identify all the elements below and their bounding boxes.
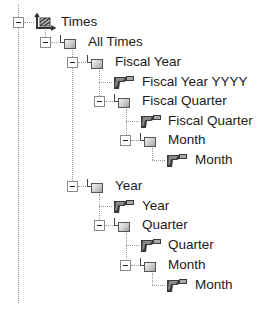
tree-node-fiscal-quarter[interactable]: Fiscal Quarter [0,92,250,110]
collapse-toggle[interactable] [40,37,51,48]
node-label: Month [195,277,233,293]
level-icon [87,179,105,193]
attribute-icon [112,74,136,94]
node-label: Fiscal Quarter [142,93,227,109]
node-label: All Times [88,34,143,50]
node-label: Year [142,198,169,214]
collapse-toggle[interactable] [13,17,24,28]
tree-node-fiscal-month-attr[interactable]: Month [0,151,250,169]
collapse-toggle[interactable] [94,220,105,231]
tree-node-fiscal-quarter-attr[interactable]: Fiscal Quarter [0,112,269,130]
collapse-toggle[interactable] [94,96,105,107]
collapse-toggle[interactable] [67,181,78,192]
level-icon [140,258,158,272]
node-label: Month [195,152,233,168]
tree-node-month[interactable]: Month [0,256,220,274]
level-icon [87,55,105,69]
tree-node-times[interactable]: Times [0,13,120,31]
node-label: Month [168,132,206,148]
level-icon [140,133,158,147]
tree-node-quarter-attr[interactable]: Quarter [0,236,230,254]
node-label: Month [168,257,206,273]
attribute-icon [112,198,136,218]
tree-node-all-times[interactable]: All Times [0,33,160,51]
tree-node-fiscal-month[interactable]: Month [0,131,220,149]
attribute-icon [165,152,189,172]
level-icon [60,35,78,49]
attribute-icon [139,237,163,257]
tree-node-year-attr[interactable]: Year [0,197,200,215]
attribute-icon [165,277,189,297]
node-label: Fiscal Year YYYY [142,74,248,90]
node-label: Quarter [168,237,214,253]
node-label: Year [115,178,142,194]
node-label: Quarter [142,217,188,233]
tree-view[interactable]: Times All Times Fiscal Year Fiscal Year … [0,0,269,319]
collapse-toggle[interactable] [120,260,131,271]
level-icon [114,94,132,108]
node-label: Times [61,14,97,30]
tree-node-quarter[interactable]: Quarter [0,216,220,234]
attribute-icon [139,113,163,133]
node-label: Fiscal Quarter [168,113,253,129]
collapse-toggle[interactable] [67,57,78,68]
level-icon [114,218,132,232]
tree-node-fiscal-year-yyyy[interactable]: Fiscal Year YYYY [0,73,269,91]
collapse-toggle[interactable] [120,135,131,146]
tree-node-fiscal-year[interactable]: Fiscal Year [0,53,200,71]
tree-node-month-attr[interactable]: Month [0,276,250,294]
node-label: Fiscal Year [115,54,181,70]
dimension-icon [34,13,56,34]
tree-node-year[interactable]: Year [0,177,180,195]
